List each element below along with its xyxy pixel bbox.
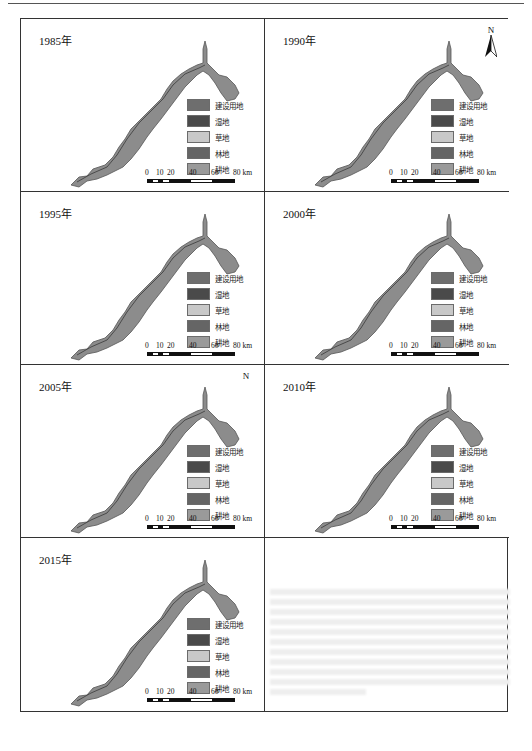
legend-item: 林地 <box>187 664 243 680</box>
panel-year-label: 2015年 <box>39 551 72 567</box>
legend-label: 草地 <box>215 651 229 662</box>
legend-item: 建设用地 <box>187 97 243 113</box>
legend-item: 湿地 <box>187 286 243 302</box>
legend-item: 草地 <box>187 648 243 664</box>
legend-label: 草地 <box>459 132 473 143</box>
scale-bar-graphic <box>391 352 479 356</box>
legend-item: 草地 <box>187 129 243 145</box>
legend-label: 建设用地 <box>215 273 243 284</box>
scale-bar-graphic <box>391 525 479 529</box>
scale-tick-label: 0 <box>389 168 393 177</box>
legend-swatch <box>187 445 210 457</box>
scale-tick-label: 60 <box>455 341 463 350</box>
legend-item: 建设用地 <box>431 443 487 459</box>
legend-item: 林地 <box>431 491 487 507</box>
scale-bar-labels: 01020406080 km <box>391 514 479 524</box>
legend-label: 湿地 <box>215 462 229 473</box>
figure-caption <box>20 728 516 742</box>
legend-swatch <box>431 320 454 332</box>
scale-tick-label: 40 <box>433 341 441 350</box>
legend-swatch <box>187 272 210 284</box>
scale-tick-label: 60 <box>211 341 219 350</box>
legend-label: 草地 <box>459 478 473 489</box>
legend-label: 湿地 <box>459 289 473 300</box>
legend-swatch <box>431 445 454 457</box>
map-legend: 建设用地湿地草地林地耕地 <box>187 443 243 523</box>
legend-swatch <box>187 666 210 678</box>
scale-bar-labels: 01020406080 km <box>391 168 479 178</box>
legend-label: 湿地 <box>215 116 229 127</box>
scale-tick-label: 80 km <box>477 514 496 523</box>
legend-item: 湿地 <box>431 113 487 129</box>
scale-tick-label: 0 <box>389 514 393 523</box>
background-body-text <box>270 585 510 699</box>
map-panel-2015: 2015年 建设用地湿地草地林地耕地 01020406080 km <box>21 538 265 711</box>
scale-tick-label: 20 <box>167 514 175 523</box>
scale-tick-label: 60 <box>211 514 219 523</box>
legend-label: 建设用地 <box>459 100 487 111</box>
north-arrow-icon <box>485 35 497 57</box>
legend-swatch <box>187 461 210 473</box>
scale-tick-label: 80 km <box>233 341 252 350</box>
legend-swatch <box>431 477 454 489</box>
legend-item: 草地 <box>187 475 243 491</box>
map-legend: 建设用地湿地草地林地耕地 <box>431 97 487 177</box>
legend-label: 湿地 <box>215 635 229 646</box>
legend-item: 建设用地 <box>431 270 487 286</box>
legend-item: 林地 <box>187 318 243 334</box>
legend-label: 林地 <box>459 148 473 159</box>
legend-label: 林地 <box>215 667 229 678</box>
legend-item: 草地 <box>431 302 487 318</box>
north-label: N <box>483 25 499 35</box>
legend-item: 林地 <box>187 145 243 161</box>
north-arrow: N <box>483 25 499 57</box>
legend-swatch <box>187 147 210 159</box>
scale-bar-labels: 01020406080 km <box>147 514 235 524</box>
legend-item: 林地 <box>187 491 243 507</box>
scale-bar-graphic <box>147 698 235 702</box>
legend-swatch <box>187 115 210 127</box>
legend-item: 湿地 <box>187 113 243 129</box>
panel-year-label: 1990年 <box>283 32 316 48</box>
scale-tick-label: 40 <box>189 687 197 696</box>
scale-tick-label: 40 <box>189 514 197 523</box>
scale-tick-label: 40 <box>189 341 197 350</box>
legend-label: 湿地 <box>459 462 473 473</box>
legend-label: 湿地 <box>215 289 229 300</box>
legend-swatch <box>187 493 210 505</box>
legend-item: 林地 <box>431 318 487 334</box>
legend-item: 建设用地 <box>431 97 487 113</box>
legend-label: 林地 <box>215 148 229 159</box>
scale-tick-label: 20 <box>411 514 419 523</box>
legend-item: 建设用地 <box>187 616 243 632</box>
map-panel-1985: 1985年 建设用地湿地草地林地耕地 01020406080 km <box>21 19 265 192</box>
scale-tick-label: 10 <box>156 168 164 177</box>
map-legend: 建设用地湿地草地林地耕地 <box>431 270 487 350</box>
legend-swatch <box>187 131 210 143</box>
legend-label: 林地 <box>459 494 473 505</box>
panel-year-label: 1985年 <box>39 32 72 48</box>
scale-tick-label: 40 <box>433 514 441 523</box>
scale-tick-label: 20 <box>167 341 175 350</box>
scale-tick-label: 20 <box>411 341 419 350</box>
scale-tick-label: 60 <box>211 687 219 696</box>
scale-tick-label: 10 <box>400 514 408 523</box>
legend-item: 草地 <box>187 302 243 318</box>
scale-tick-label: 20 <box>167 687 175 696</box>
legend-label: 林地 <box>215 494 229 505</box>
scale-tick-label: 0 <box>145 168 149 177</box>
scale-tick-label: 80 km <box>233 687 252 696</box>
legend-swatch <box>187 634 210 646</box>
legend-swatch <box>187 99 210 111</box>
scale-tick-label: 10 <box>156 514 164 523</box>
map-panel-1990: 1990年 N 建设用地湿地草地林地耕地 01020406080 km <box>265 19 509 192</box>
legend-item: 林地 <box>431 145 487 161</box>
map-legend: 建设用地湿地草地林地耕地 <box>187 616 243 696</box>
legend-item: 草地 <box>431 129 487 145</box>
legend-swatch <box>431 288 454 300</box>
legend-swatch <box>431 99 454 111</box>
scale-bar-labels: 01020406080 km <box>147 687 235 697</box>
map-panel-1995: 1995年 建设用地湿地草地林地耕地 01020406080 km <box>21 192 265 365</box>
scale-tick-label: 10 <box>400 168 408 177</box>
legend-label: 草地 <box>215 478 229 489</box>
